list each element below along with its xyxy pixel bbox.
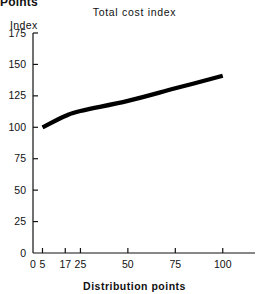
chart-series bbox=[42, 76, 222, 128]
chart-ticks bbox=[33, 33, 223, 253]
svg-text:0: 0 bbox=[20, 247, 26, 259]
svg-text:75: 75 bbox=[14, 152, 26, 164]
chart-plot-area: 02550751001251501750517255075100 bbox=[0, 0, 269, 294]
x-axis-label: Distribution points bbox=[0, 280, 269, 292]
svg-text:150: 150 bbox=[8, 58, 26, 70]
svg-text:0: 0 bbox=[30, 258, 36, 270]
svg-text:25: 25 bbox=[14, 215, 26, 227]
svg-text:125: 125 bbox=[8, 89, 26, 101]
svg-text:25: 25 bbox=[75, 258, 87, 270]
svg-text:17: 17 bbox=[59, 258, 71, 270]
svg-text:5: 5 bbox=[40, 258, 46, 270]
chart-figure: Points Total cost index Index 0255075100… bbox=[0, 0, 269, 294]
svg-text:100: 100 bbox=[8, 121, 26, 133]
svg-text:75: 75 bbox=[169, 258, 181, 270]
svg-text:50: 50 bbox=[122, 258, 134, 270]
svg-text:50: 50 bbox=[14, 184, 26, 196]
svg-text:175: 175 bbox=[8, 27, 26, 39]
chart-tick-labels: 02550751001251501750517255075100 bbox=[8, 27, 231, 270]
svg-text:100: 100 bbox=[214, 258, 232, 270]
chart-axes bbox=[33, 33, 255, 253]
